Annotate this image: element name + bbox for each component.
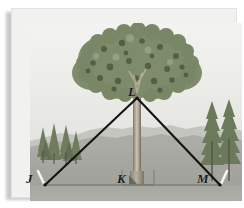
triangle-overlay — [30, 23, 242, 201]
vertex-label-K: K — [117, 172, 126, 185]
figure-canvas: J K L M — [0, 0, 244, 208]
photo-scene — [30, 23, 242, 201]
photo-plate-border: J K L M — [11, 8, 237, 198]
vertex-label-J: J — [26, 172, 33, 185]
vertex-label-M: M — [197, 172, 209, 185]
vertex-dot-J — [43, 183, 47, 187]
vertex-dot-M — [218, 183, 222, 187]
vertex-label-L: L — [128, 85, 136, 98]
